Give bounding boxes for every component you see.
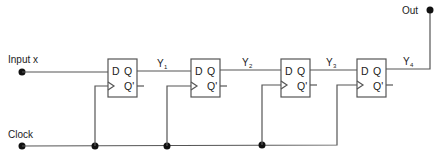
flip-flop-2: D Q Q'	[191, 59, 227, 97]
clock-label: Clock	[8, 129, 34, 140]
y4-label: Y	[403, 56, 410, 67]
ff3-q-pin: Q	[297, 65, 305, 77]
flip-flop-3: D Q Q'	[281, 59, 317, 97]
svg-text:4: 4	[410, 62, 414, 68]
ff2-qn-pin: Q'	[207, 80, 217, 92]
out-label: Out	[402, 5, 418, 16]
y3-label: Y	[326, 57, 333, 68]
clock-branch-3	[262, 85, 281, 145]
clock-branch-1	[95, 86, 108, 146]
ff2-q-pin: Q	[207, 65, 215, 77]
y1-label: Y	[157, 58, 164, 69]
svg-text:1: 1	[164, 64, 168, 70]
y2-label: Y	[242, 57, 249, 68]
clock-branch-2	[167, 86, 191, 146]
ff3-qn-pin: Q'	[297, 80, 307, 92]
flip-flop-1: D Q Q'	[108, 59, 144, 97]
shift-register-diagram: Input x Clock D Q Q' Y 1 D Q Q' Y 2 D Q …	[0, 0, 440, 166]
ff4-q-pin: Q	[373, 65, 381, 77]
flip-flop-4: D Q Q'	[357, 59, 393, 97]
svg-text:2: 2	[249, 63, 253, 69]
ff1-d-pin: D	[112, 65, 120, 77]
out-node	[427, 7, 434, 14]
ff1-qn-pin: Q'	[124, 80, 134, 92]
ff3-d-pin: D	[285, 65, 293, 77]
ff4-d-pin: D	[361, 65, 369, 77]
input-x-label: Input x	[8, 54, 38, 65]
ff1-q-pin: Q	[124, 65, 132, 77]
svg-text:3: 3	[333, 63, 337, 69]
ff2-d-pin: D	[195, 65, 203, 77]
ff4-qn-pin: Q'	[373, 80, 383, 92]
